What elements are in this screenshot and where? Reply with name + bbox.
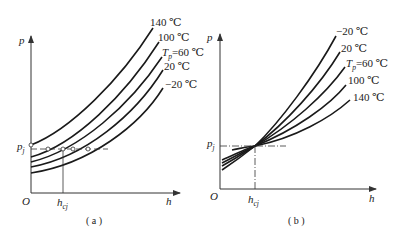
origin-label-b: O bbox=[210, 190, 218, 202]
curve-a-140 bbox=[31, 28, 153, 145]
hcj-label-b: hcj bbox=[248, 193, 259, 208]
marker-a bbox=[86, 147, 90, 151]
curve-label-b-60: Tp=60 ℃ bbox=[346, 57, 388, 72]
curve-a-m20 bbox=[31, 88, 163, 173]
curve-label-b-20: 20 ℃ bbox=[341, 42, 367, 54]
curve-b-140 bbox=[232, 100, 350, 150]
pj-label-b: pj bbox=[206, 137, 215, 152]
curve-a-60 bbox=[31, 57, 162, 162]
curve-label-b-100: 100 ℃ bbox=[348, 74, 380, 86]
x-axis-label-b: h bbox=[369, 192, 375, 204]
curve-label-b-m20: −20 ℃ bbox=[336, 25, 368, 37]
figure-canvas: p h O pj hcj 140 ℃ 100 ℃ Tp=60 ℃ 20 ℃ −2… bbox=[0, 0, 403, 240]
origin-label-a: O bbox=[22, 195, 30, 207]
y-axis-label-b: p bbox=[206, 31, 213, 43]
pj-label-a: pj bbox=[16, 140, 25, 155]
caption-b: ( b ) bbox=[288, 215, 305, 227]
marker-a bbox=[29, 143, 33, 147]
curve-label-a-20: 20 ℃ bbox=[164, 60, 190, 72]
marker-a bbox=[46, 147, 50, 151]
caption-a: ( a ) bbox=[86, 215, 102, 227]
marker-a bbox=[61, 147, 65, 151]
hcj-label-a: hcj bbox=[57, 196, 68, 211]
panel-b: p h O pj hcj −20 ℃ 20 ℃ Tp=60 ℃ 100 ℃ 14… bbox=[206, 25, 388, 227]
curve-b-m20 bbox=[222, 36, 336, 170]
curve-label-a-m20: −20 ℃ bbox=[165, 78, 197, 90]
curve-label-a-60: Tp=60 ℃ bbox=[162, 46, 204, 61]
x-axis-label-a: h bbox=[166, 195, 172, 207]
marker-a bbox=[71, 147, 75, 151]
panel-a: p h O pj hcj 140 ℃ 100 ℃ Tp=60 ℃ 20 ℃ −2… bbox=[16, 16, 204, 227]
curve-label-a-100: 100 ℃ bbox=[158, 31, 190, 43]
y-axis-label-a: p bbox=[18, 34, 25, 46]
curve-label-b-140: 140 ℃ bbox=[353, 91, 385, 103]
curve-label-a-140: 140 ℃ bbox=[150, 16, 182, 28]
curve-a-20 bbox=[31, 70, 163, 167]
